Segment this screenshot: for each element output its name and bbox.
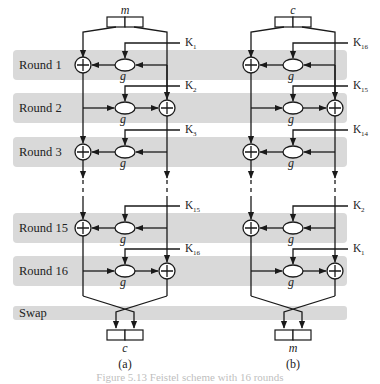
g-label: g (288, 156, 294, 170)
round-bands (13, 50, 347, 320)
key-subscript: 2 (193, 86, 197, 94)
input-half-right (125, 17, 143, 27)
input-half-left (275, 17, 293, 27)
key-subscript: 16 (193, 249, 201, 257)
g-label: g (120, 156, 126, 170)
g-label: g (288, 275, 294, 289)
output-half-left (275, 330, 293, 340)
input-half-left (107, 17, 125, 27)
g-label: g (120, 69, 126, 83)
panel-sublabel: (b) (286, 357, 300, 371)
output-half-left (107, 330, 125, 340)
input-label: m (121, 3, 130, 17)
output-half-right (125, 330, 143, 340)
round-label: Round 15 (19, 221, 68, 235)
g-label: g (120, 232, 126, 246)
round-label: Round 1 (19, 58, 62, 72)
swap-label: Swap (19, 306, 47, 320)
key-subscript: 1 (361, 249, 365, 257)
key-subscript: 2 (361, 206, 365, 214)
round-label: Round 2 (19, 101, 62, 115)
output-label: c (122, 341, 128, 355)
panel-sublabel: (a) (118, 357, 131, 371)
output-half-right (293, 330, 311, 340)
key-subscript: 3 (193, 130, 197, 138)
key-subscript: 14 (361, 130, 369, 138)
figure-caption: Figure 5.13 Feistel scheme with 16 round… (96, 371, 283, 383)
g-label: g (288, 112, 294, 126)
input-label: c (290, 3, 296, 17)
key-subscript: 15 (193, 206, 201, 214)
g-label: g (120, 275, 126, 289)
key-subscript: 15 (361, 86, 369, 94)
key-subscript: 16 (361, 43, 369, 51)
feistel-diagram: mK1gK2gK3gK15gK16gc(a)cK16gK15gK14gK2gK1… (0, 0, 380, 384)
g-label: g (120, 112, 126, 126)
g-label: g (288, 232, 294, 246)
round-label: Round 3 (19, 145, 62, 159)
input-half-right (293, 17, 311, 27)
output-label: m (289, 341, 298, 355)
g-label: g (288, 69, 294, 83)
key-subscript: 1 (193, 43, 197, 51)
round-label: Round 16 (19, 264, 68, 278)
